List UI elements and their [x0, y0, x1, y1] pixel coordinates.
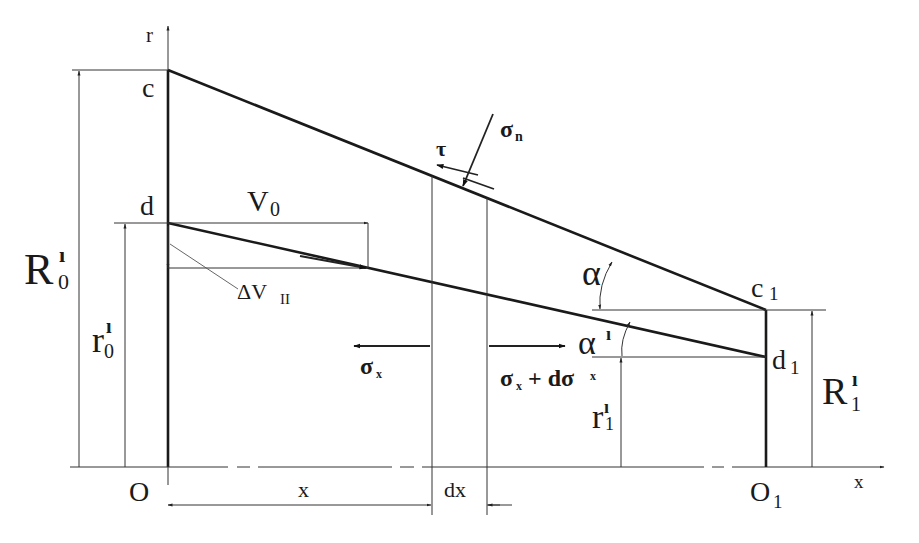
V0-label: V 0 [247, 184, 280, 220]
svg-text:1: 1 [773, 491, 783, 512]
point-d1-label: d 1 [772, 344, 800, 378]
svg-text:II: II [280, 291, 290, 307]
dx-dimension-label: dx [444, 477, 466, 502]
svg-text:ı: ı [852, 368, 858, 390]
point-c-label: c [142, 72, 154, 103]
dV-leader-line [170, 244, 238, 289]
point-O-label: O [129, 476, 149, 507]
svg-text:+ dσ: + dσ [522, 365, 574, 391]
svg-text:ı: ı [106, 315, 112, 337]
svg-text:0: 0 [270, 198, 280, 220]
r1-label: r ı 1 [592, 397, 614, 435]
svg-text:x: x [590, 369, 596, 383]
svg-text:σ: σ [500, 116, 513, 142]
point-O1-label: O 1 [750, 476, 783, 512]
sigma-x-label: σ x [360, 353, 382, 381]
svg-text:c: c [751, 272, 763, 303]
x-axis-label: x [854, 471, 864, 492]
svg-text:1: 1 [769, 283, 779, 304]
svg-text:σ: σ [500, 365, 513, 391]
svg-text:0: 0 [58, 269, 69, 294]
tau-base-line [463, 178, 494, 189]
svg-text:O: O [750, 476, 770, 507]
velocity-along-surface-arrow [300, 256, 366, 268]
svg-text:V: V [247, 184, 269, 217]
cone-diagram: r x c d O c 1 d 1 O 1 R ı 0 r ı 0 R ı 1 … [0, 0, 919, 543]
sigma-n-label: σ n [500, 116, 523, 144]
alpha-prime-label: α ı [578, 324, 611, 361]
svg-text:1: 1 [605, 414, 614, 434]
svg-text:R: R [24, 245, 54, 294]
svg-text:ı: ı [59, 242, 65, 267]
sigma-n-arrow [463, 114, 493, 186]
svg-text:x: x [376, 367, 382, 381]
svg-text:r: r [592, 398, 604, 435]
svg-text:R: R [822, 370, 848, 412]
svg-text:1: 1 [851, 393, 861, 415]
svg-text:n: n [515, 129, 523, 144]
tau-label: τ [436, 136, 446, 161]
svg-text:ı: ı [606, 324, 611, 344]
svg-text:ΔV: ΔV [237, 279, 267, 304]
svg-text:0: 0 [104, 340, 114, 362]
svg-text:r: r [92, 320, 104, 360]
x-dimension-label: x [298, 477, 309, 502]
r-axis-label: r [146, 23, 153, 47]
r0-label: r ı 0 [92, 315, 114, 362]
R1-label: R ı 1 [822, 368, 861, 415]
alpha-label: α [582, 253, 601, 293]
svg-text:σ: σ [360, 353, 373, 379]
sigma-x-plus-dsigma-label: σ x + dσ x [500, 365, 596, 393]
dV-label: ΔV II [237, 279, 290, 307]
svg-text:1: 1 [790, 357, 800, 378]
alpha-arc [600, 262, 612, 309]
point-c1-label: c 1 [751, 272, 779, 304]
svg-text:d: d [772, 344, 786, 375]
svg-text:α: α [578, 324, 596, 361]
point-d-label: d [140, 190, 154, 221]
R0-label: R ı 0 [24, 242, 69, 294]
